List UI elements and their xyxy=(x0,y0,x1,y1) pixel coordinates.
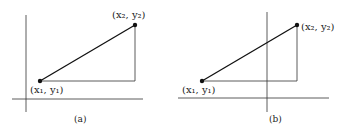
diagram: (x₁, y₁) (x₂, y₂) (a) (x₁, y₁) (x₂, y₂) … xyxy=(0,0,346,137)
point-1-label: (x₁, y₁) xyxy=(182,84,216,95)
point-2 xyxy=(295,23,299,27)
segment xyxy=(202,25,297,81)
point-1-label: (x₁, y₁) xyxy=(30,84,64,95)
point-1 xyxy=(38,79,42,83)
caption-b: (b) xyxy=(269,114,282,124)
point-2-label: (x₂, y₂) xyxy=(301,21,335,32)
segment xyxy=(40,25,135,81)
panel-a: (x₁, y₁) (x₂, y₂) (a) xyxy=(12,9,146,124)
point-1 xyxy=(200,79,204,83)
caption-a: (a) xyxy=(74,114,86,124)
point-2-label: (x₂, y₂) xyxy=(112,9,146,20)
panel-b: (x₁, y₁) (x₂, y₂) (b) xyxy=(178,12,335,124)
point-2 xyxy=(133,23,137,27)
